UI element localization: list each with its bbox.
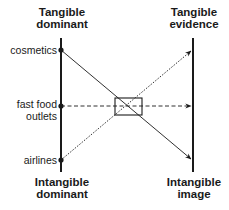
airlines-dot [58,157,63,162]
fast-food-dot [58,103,63,108]
diagram-canvas [0,0,229,210]
airlines-arrow [61,51,191,160]
cosmetics-arrow [61,50,191,159]
cosmetics-dot [58,47,63,52]
